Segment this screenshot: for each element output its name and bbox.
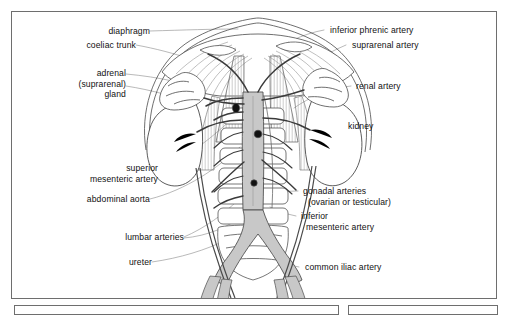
label-inferior-phrenic-artery-line1: inferior phrenic artery [330,25,414,35]
label-adrenal-gland: adrenal (suprarenal) gland [6,68,126,100]
adjacent-figure-frame-right [348,305,498,315]
label-inferior-mesenteric-artery-line2: mesenteric artery [301,222,374,233]
label-coeliac-trunk-line1: coeliac trunk [86,40,136,50]
label-ureter: ureter [6,257,152,268]
label-inferior-mesenteric-artery: inferior mesenteric artery [301,211,374,232]
label-ureter-line1: ureter [129,257,152,267]
label-renal-artery-line1: renal artery [356,81,401,91]
label-adrenal-gland-line1: adrenal [6,68,126,79]
label-lumbar-arteries: lumbar arteries [6,232,184,243]
label-adrenal-gland-line2: (suprarenal) [6,79,126,90]
label-coeliac-trunk: coeliac trunk [6,40,136,51]
label-renal-artery: renal artery [356,81,401,92]
label-diaphragm-line1: diaphragm [108,26,150,36]
adjacent-figure-frame-left [14,305,339,315]
label-suprarenal-artery: suprarenal artery [352,40,419,51]
label-superior-mesenteric-artery-line1: superior [4,163,158,174]
label-inferior-mesenteric-artery-line1: inferior [301,211,374,222]
label-adrenal-gland-line3: gland [6,89,126,100]
label-diaphragm: diaphragm [6,26,150,37]
kidney-right [305,99,362,186]
adjacent-figure-frames [0,303,507,312]
label-kidney-line1: kidney [348,121,373,131]
label-superior-mesenteric-artery-line2: mesenteric artery [4,174,158,185]
label-gonadal-arteries-line2: (ovarian or testicular) [303,197,391,208]
label-lumbar-arteries-line1: lumbar arteries [125,232,184,242]
label-suprarenal-artery-line1: suprarenal artery [352,40,419,50]
label-superior-mesenteric-artery: superior mesenteric artery [4,163,158,184]
label-abdominal-aorta-line1: abdominal aorta [87,194,150,204]
label-common-iliac-artery-line1: common iliac artery [305,262,381,272]
label-abdominal-aorta: abdominal aorta [6,194,150,205]
label-kidney: kidney [348,121,373,132]
label-common-iliac-artery: common iliac artery [305,262,381,273]
label-inferior-phrenic-artery: inferior phrenic artery [330,25,414,36]
adrenal-gland-left [160,73,206,111]
label-gonadal-arteries: gonadal arteries (ovarian or testicular) [303,186,391,207]
label-gonadal-arteries-line1: gonadal arteries [303,186,391,197]
